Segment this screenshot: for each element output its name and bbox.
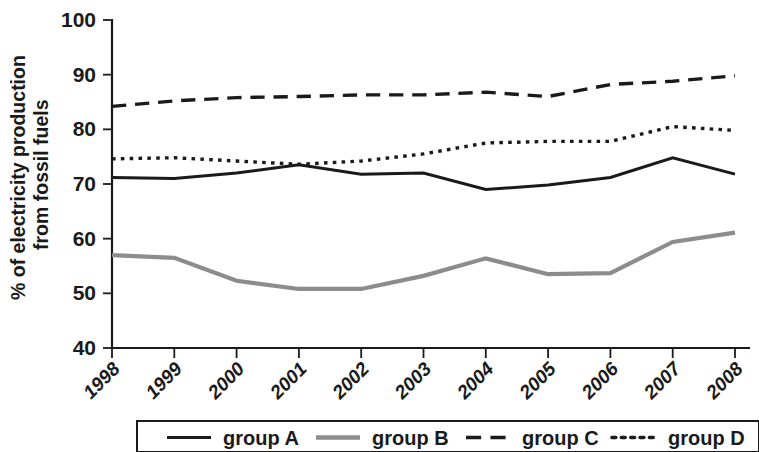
x-axis-tick-label: 1998 <box>79 358 124 403</box>
y-axis-tick-label: 50 <box>73 281 96 304</box>
x-axis-tick-label: 2002 <box>328 358 374 404</box>
x-axis-tick-label: 2003 <box>390 358 436 404</box>
x-axis-tick-label: 2000 <box>203 358 249 404</box>
y-axis-tick-label: 40 <box>73 336 96 359</box>
x-axis-tick-label: 1999 <box>141 358 186 403</box>
y-axis-tick-label: 100 <box>61 8 96 31</box>
legend-label-group-d: group D <box>668 427 745 449</box>
x-axis-tick-label: 2006 <box>577 358 623 404</box>
y-axis-title: % of electricity production from fossil … <box>7 55 52 300</box>
chart-canvas: % of electricity production from fossil … <box>0 0 759 452</box>
y-axis-tick-label: 60 <box>73 227 96 250</box>
legend-label-group-c: group C <box>522 427 599 449</box>
x-axis-tick-label: 2004 <box>452 358 498 404</box>
y-axis-title-line-1: % of electricity production <box>7 55 29 300</box>
fossil-fuel-electricity-line-chart: % of electricity production from fossil … <box>0 0 759 452</box>
x-axis-tick-label: 2005 <box>514 358 560 404</box>
series-line-group-c <box>112 76 735 107</box>
chart-legend: group Agroup Bgroup Cgroup D <box>137 421 759 452</box>
y-axis-tick-label: 90 <box>73 63 96 86</box>
series-layer <box>112 76 735 289</box>
series-line-group-a <box>112 158 735 190</box>
y-axis-tick-label: 80 <box>73 117 96 140</box>
x-axis-tick-label: 2007 <box>639 357 685 403</box>
x-axis: 1998199920002001200220032004200520062007… <box>79 348 749 403</box>
x-axis-tick-label: 2001 <box>265 358 310 403</box>
y-axis: 405060708090100 <box>61 8 112 359</box>
legend-label-group-b: group B <box>372 427 449 449</box>
y-axis-title-line-2: from fossil fuels <box>30 99 52 250</box>
x-axis-tick-label: 2008 <box>701 358 747 404</box>
legend-label-group-a: group A <box>223 427 299 449</box>
series-line-group-d <box>112 127 735 165</box>
series-line-group-b <box>112 233 735 289</box>
y-axis-tick-label: 70 <box>73 172 96 195</box>
